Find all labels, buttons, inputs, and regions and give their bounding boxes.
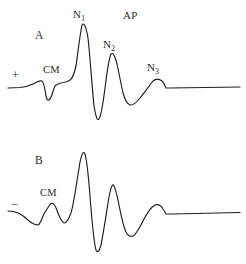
ap-label: AP <box>123 10 137 21</box>
n3-label-subscript: 3 <box>155 67 159 76</box>
panel-b-letter: B <box>35 155 43 167</box>
polarity-positive-marker: + <box>12 69 19 81</box>
n1-label: N1 <box>73 9 85 23</box>
n2-label-base: N <box>103 38 111 50</box>
n2-label-subscript: 2 <box>111 44 115 53</box>
trace-b-path <box>8 152 240 251</box>
waveform-figure: A + CM N1 AP N2 N3 B − CM <box>0 0 246 264</box>
n1-label-subscript: 1 <box>81 14 85 23</box>
polarity-negative-marker: − <box>11 198 18 210</box>
n1-label-base: N <box>73 8 81 20</box>
cm-label-b: CM <box>40 188 57 199</box>
n2-label: N2 <box>103 39 115 53</box>
n3-label-base: N <box>147 61 155 73</box>
n3-label: N3 <box>147 62 159 76</box>
panel-a-letter: A <box>35 30 44 42</box>
cm-label-a: CM <box>43 65 60 76</box>
